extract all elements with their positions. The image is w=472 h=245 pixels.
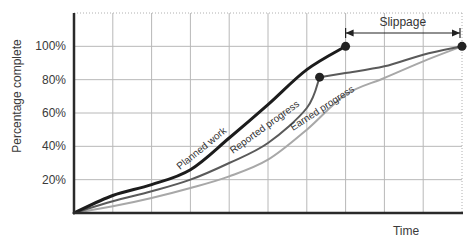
slippage-left-arrowhead <box>346 30 354 37</box>
slippage-right-arrowhead <box>452 30 460 37</box>
y-tick-label: 20% <box>42 173 66 187</box>
y-tick-label: 60% <box>42 106 66 120</box>
grid <box>74 13 462 213</box>
y-tick-labels: 20%40%60%80%100% <box>35 39 66 186</box>
y-tick-label: 100% <box>35 39 66 53</box>
reported-progress-end-marker <box>458 42 467 51</box>
annotations: Slippage <box>346 15 460 38</box>
x-axis-title: Time <box>393 224 420 238</box>
y-tick-label: 40% <box>42 139 66 153</box>
y-axis-title: Percentage complete <box>10 39 24 153</box>
y-tick-label: 80% <box>42 73 66 87</box>
slippage-label: Slippage <box>379 15 426 29</box>
planned-work-label: Planned work <box>174 124 229 171</box>
slippage-chart: 20%40%60%80%100% Slippage Percentage com… <box>0 0 472 245</box>
planned-work-line <box>74 46 346 213</box>
reported-progress-marker <box>315 73 324 82</box>
planned-work-end-marker <box>341 42 350 51</box>
